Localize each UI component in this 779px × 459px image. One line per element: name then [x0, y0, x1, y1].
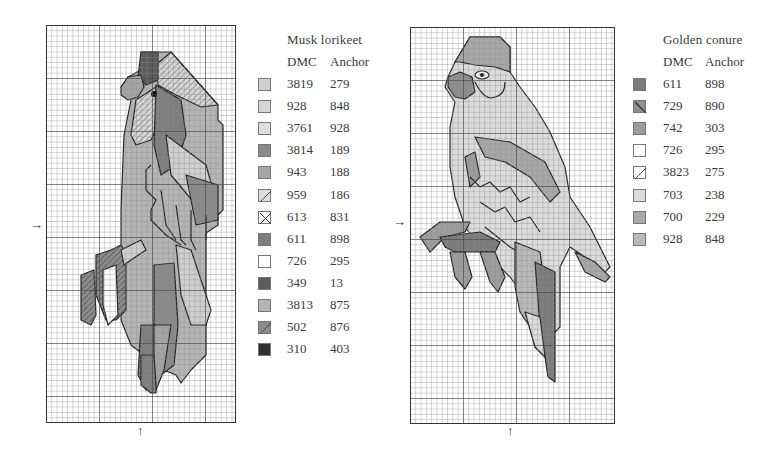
dmc-code: 502 [287, 319, 307, 335]
anchor-code: 898 [330, 231, 350, 247]
anchor-code: 186 [330, 187, 350, 203]
anchor-header: Anchor [330, 54, 369, 70]
anchor-code: 279 [330, 76, 350, 92]
dmc-code: 310 [287, 341, 307, 357]
dmc-code: 959 [287, 187, 307, 203]
color-swatch-icon [258, 255, 271, 268]
dmc-code: 703 [663, 187, 683, 203]
dmc-code: 3819 [287, 76, 313, 92]
dmc-code: 3814 [287, 142, 313, 158]
dmc-code: 943 [287, 164, 307, 180]
color-swatch-icon [258, 277, 271, 290]
anchor-code: 295 [705, 142, 725, 158]
dmc-code: 928 [663, 231, 683, 247]
anchor-code: 303 [705, 120, 725, 136]
key-row: 3819279 [258, 76, 388, 94]
anchor-code: 189 [330, 142, 350, 158]
color-swatch-icon [633, 100, 646, 113]
color-swatch-icon [258, 211, 271, 224]
bottom-center-marker-arrow: ↑ [137, 424, 144, 437]
dmc-code: 928 [287, 98, 307, 114]
key-row: 34913 [258, 275, 388, 293]
dmc-code: 3823 [663, 164, 689, 180]
anchor-code: 238 [705, 187, 725, 203]
color-swatch-icon [258, 100, 271, 113]
key-row: 726295 [258, 253, 388, 271]
dmc-code: 349 [287, 275, 307, 291]
key-row: 502876 [258, 319, 388, 337]
right-bottom-center-marker-arrow: ↑ [507, 424, 514, 437]
key-row: 726295 [633, 142, 763, 160]
anchor-code: 403 [330, 341, 350, 357]
color-swatch-icon [633, 78, 646, 91]
musk-lorikeet-chart-grid [46, 25, 236, 423]
dmc-code: 3813 [287, 297, 313, 313]
dmc-code: 742 [663, 120, 683, 136]
color-swatch-icon [258, 122, 271, 135]
key-row: 742303 [633, 120, 763, 138]
anchor-code: 188 [330, 164, 350, 180]
anchor-code: 876 [330, 319, 350, 335]
color-swatch-icon [633, 233, 646, 246]
right-left-center-marker-arrow: → [393, 215, 406, 228]
color-swatch-icon [633, 189, 646, 202]
anchor-code: 898 [705, 76, 725, 92]
color-swatch-icon [633, 211, 646, 224]
key-title: Musk lorikeet [287, 32, 362, 48]
key-row: 611898 [258, 231, 388, 249]
key-row: 703238 [633, 187, 763, 205]
color-swatch-icon [258, 321, 271, 334]
anchor-code: 295 [330, 253, 350, 269]
key-row: 928848 [258, 98, 388, 116]
key-row: 928848 [633, 231, 763, 249]
key-row: 3823275 [633, 164, 763, 182]
dmc-header: DMC [287, 54, 317, 70]
dmc-code: 611 [663, 76, 682, 92]
anchor-code: 875 [330, 297, 350, 313]
key-row: 310403 [258, 341, 388, 359]
anchor-code: 848 [330, 98, 350, 114]
anchor-code: 229 [705, 209, 725, 225]
anchor-code: 13 [330, 275, 343, 291]
color-swatch-icon [633, 166, 646, 179]
key-row: 3761928 [258, 120, 388, 138]
key-row: 943188 [258, 164, 388, 182]
key-row: 729890 [633, 98, 763, 116]
key-title: Golden conure [663, 32, 743, 48]
dmc-code: 3761 [287, 120, 313, 136]
key-row: 3813875 [258, 297, 388, 315]
key-row: 613831 [258, 209, 388, 227]
color-swatch-icon [258, 166, 271, 179]
key-row: 700229 [633, 209, 763, 227]
anchor-code: 831 [330, 209, 350, 225]
dmc-header: DMC [663, 54, 693, 70]
color-swatch-icon [258, 233, 271, 246]
golden-conure-chart-grid [410, 27, 615, 424]
anchor-header: Anchor [705, 54, 744, 70]
key-row: 959186 [258, 187, 388, 205]
anchor-code: 275 [705, 164, 725, 180]
color-swatch-icon [258, 78, 271, 91]
golden-conure-key: Golden conure DMC Anchor 611898729890742… [633, 32, 773, 262]
dmc-code: 726 [663, 142, 683, 158]
color-swatch-icon [633, 144, 646, 157]
anchor-code: 848 [705, 231, 725, 247]
anchor-code: 890 [705, 98, 725, 114]
dmc-code: 729 [663, 98, 683, 114]
color-swatch-icon [258, 343, 271, 356]
dmc-code: 726 [287, 253, 307, 269]
left-center-marker-arrow: → [30, 218, 43, 231]
musk-lorikeet-pattern [46, 25, 236, 423]
color-swatch-icon [258, 144, 271, 157]
dmc-code: 611 [287, 231, 306, 247]
color-swatch-icon [258, 189, 271, 202]
dmc-code: 613 [287, 209, 307, 225]
key-row: 611898 [633, 76, 763, 94]
musk-lorikeet-key: Musk lorikeet DMC Anchor 381927992884837… [258, 32, 388, 372]
dmc-code: 700 [663, 209, 683, 225]
color-swatch-icon [633, 122, 646, 135]
golden-conure-pattern [410, 27, 615, 424]
anchor-code: 928 [330, 120, 350, 136]
color-swatch-icon [258, 299, 271, 312]
key-row: 3814189 [258, 142, 388, 160]
